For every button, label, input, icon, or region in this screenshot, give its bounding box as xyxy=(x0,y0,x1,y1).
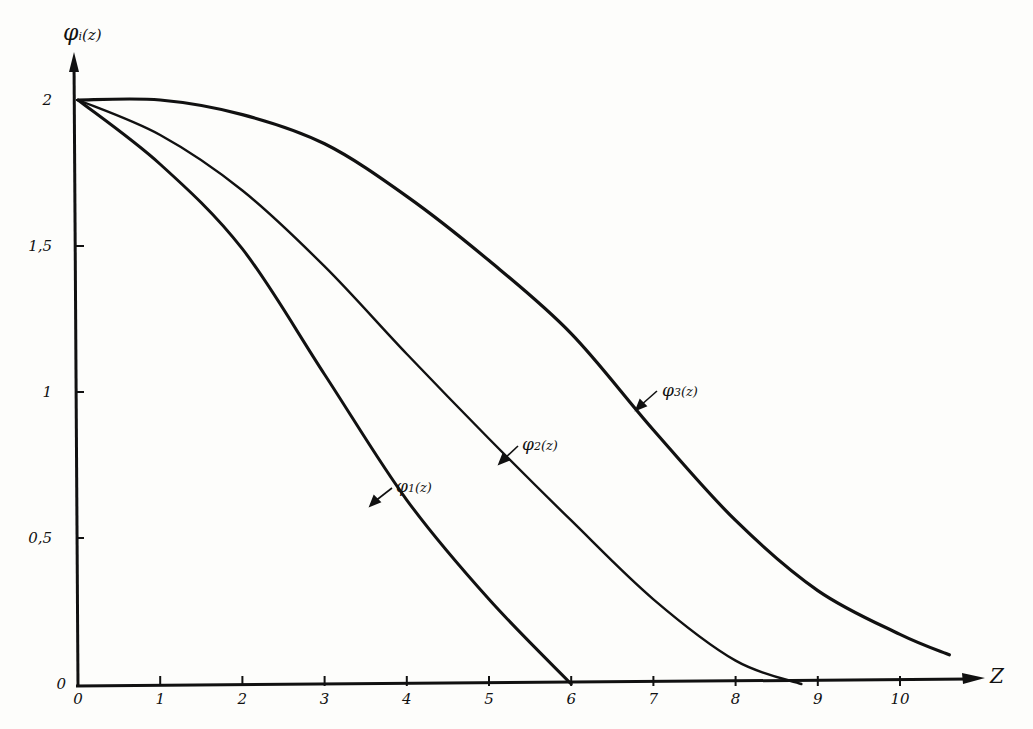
axes xyxy=(69,52,985,686)
phi1-label: φ1(z) xyxy=(396,476,432,496)
curve-phi1 xyxy=(78,100,571,684)
x-tick-label: 7 xyxy=(649,690,659,708)
x-axis-line xyxy=(76,679,970,686)
phi2-label: φ2(z) xyxy=(522,434,558,454)
phi3-label: φ3(z) xyxy=(662,380,698,400)
x-tick-label: 8 xyxy=(731,690,741,708)
curves xyxy=(78,99,949,684)
y-tick-label: 0 xyxy=(0,675,66,693)
y-axis-arrow-icon xyxy=(69,52,79,72)
line-chart xyxy=(0,0,1033,729)
x-tick-label: 0 xyxy=(73,690,83,708)
x-tick-label: 2 xyxy=(238,690,248,708)
x-tick-label: 5 xyxy=(484,690,494,708)
y-tick-label: 0,5 xyxy=(0,529,52,547)
x-tick-label: 10 xyxy=(890,690,909,708)
y-tick-label: 1,5 xyxy=(0,237,52,255)
y-tick-label: 1 xyxy=(0,383,52,401)
y-tick-label: 2 xyxy=(0,91,52,109)
x-axis-title: Z xyxy=(990,664,1004,688)
y-axis-line xyxy=(74,60,78,686)
y-axis-title: φi(z) xyxy=(63,20,102,45)
x-tick-label: 3 xyxy=(320,690,330,708)
x-tick-label: 9 xyxy=(813,690,823,708)
x-axis-arrow-icon xyxy=(962,673,985,684)
curve-phi3 xyxy=(78,99,949,655)
x-tick-label: 4 xyxy=(402,690,412,708)
x-tick-label: 6 xyxy=(566,690,576,708)
x-tick-label: 1 xyxy=(155,690,165,708)
